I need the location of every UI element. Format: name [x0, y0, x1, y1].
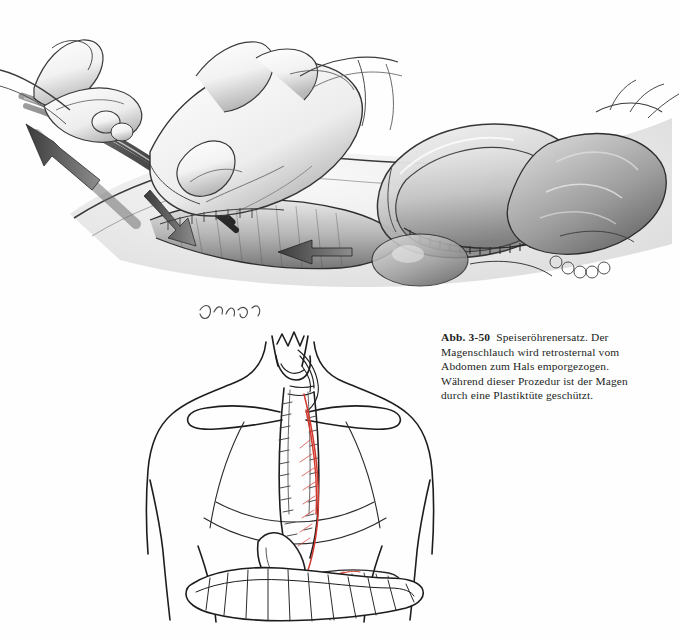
figure-number: Abb. 3-50 [441, 331, 490, 343]
gastric-tube-route [279, 388, 319, 558]
figure-upper [0, 14, 679, 324]
rib-cage [204, 422, 386, 544]
clavicle-right [306, 406, 400, 429]
figure-caption: Abb. 3-50 Speiseröhrenersatz. Der Magens… [441, 330, 646, 403]
transverse-colon [186, 568, 423, 621]
cervical-anastomosis [288, 350, 318, 412]
clavicle-left [188, 406, 282, 429]
surgeon-gloved-hand-left [0, 40, 142, 142]
page-canvas: Abb. 3-50 Speiseröhrenersatz. Der Magens… [0, 0, 679, 642]
figure-lower [138, 330, 468, 630]
artist-signature [200, 306, 260, 319]
